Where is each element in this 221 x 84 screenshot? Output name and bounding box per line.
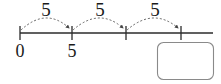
- number-line-diagram: 5 5 5 0 5: [0, 0, 221, 84]
- jump-labels-group: 5 5 5: [41, 0, 160, 20]
- answer-box[interactable]: [158, 43, 214, 80]
- jump-label-3: 5: [150, 0, 160, 20]
- jump-label-1: 5: [41, 0, 51, 20]
- diagram-canvas: 5 5 5 0 5: [0, 0, 221, 84]
- tick-label-5: 5: [68, 41, 77, 61]
- tick-label-0: 0: [16, 41, 25, 61]
- tick-labels-group: 0 5: [16, 41, 77, 61]
- jump-label-2: 5: [95, 0, 105, 20]
